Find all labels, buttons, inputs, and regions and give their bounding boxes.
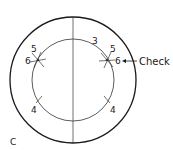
label-top-3: 3 xyxy=(92,36,98,46)
label-upper-right-5: 5 xyxy=(110,44,116,54)
label-upper-right-6: 6 xyxy=(115,56,121,66)
upper-right-intersection-mark xyxy=(99,52,115,68)
label-upper-left-5: 5 xyxy=(31,44,37,54)
panel-label-c: C xyxy=(10,137,16,147)
callout-check-label: Check xyxy=(139,56,170,67)
check-arrow xyxy=(122,59,137,63)
label-lower-left-4: 4 xyxy=(31,105,37,115)
upper-left-intersection-mark xyxy=(30,52,46,68)
label-upper-left-6: 6 xyxy=(25,56,31,66)
label-lower-right-4: 4 xyxy=(110,105,116,115)
geometric-construction-diagram: 3 5 6 5 6 4 4 Check C xyxy=(0,0,173,150)
